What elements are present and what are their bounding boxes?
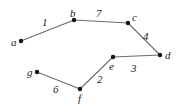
graph-node-c <box>126 21 130 25</box>
graph-canvas <box>0 0 179 110</box>
node-label-g: g <box>27 67 33 78</box>
edge-weight-cd: 4 <box>143 31 149 42</box>
edge-weight-gf: 6 <box>53 84 59 95</box>
graph-node-e <box>111 55 115 59</box>
graph-node-d <box>158 53 162 57</box>
node-label-e: e <box>109 61 114 72</box>
edge-weight-ab: 1 <box>42 17 48 28</box>
edge-weight-ed: 3 <box>131 63 137 74</box>
node-layer <box>19 18 162 91</box>
graph-edge-ab <box>21 20 74 41</box>
edge-weight-ef: 2 <box>97 74 103 85</box>
edge-layer <box>21 20 160 89</box>
node-label-a: a <box>11 37 17 48</box>
graph-node-a <box>19 39 23 43</box>
graph-node-f <box>78 87 82 91</box>
graph-edge-ed <box>113 55 160 57</box>
graph-figure: 174326abcdefg <box>0 0 179 110</box>
node-label-b: b <box>70 8 76 19</box>
node-label-f: f <box>78 93 81 104</box>
node-label-c: c <box>132 12 137 23</box>
edge-weight-bc: 7 <box>96 8 102 19</box>
node-label-d: d <box>165 50 171 61</box>
graph-node-g <box>35 70 39 74</box>
graph-edge-bc <box>74 20 128 23</box>
